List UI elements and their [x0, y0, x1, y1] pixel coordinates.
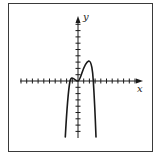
y-axis-label: y: [83, 12, 89, 22]
x-axis-label: x: [137, 84, 143, 94]
function-graph: [0, 0, 158, 155]
function-curve: [65, 61, 96, 137]
y-axis-arrow-icon: [76, 16, 81, 23]
x-axis: [20, 79, 143, 84]
